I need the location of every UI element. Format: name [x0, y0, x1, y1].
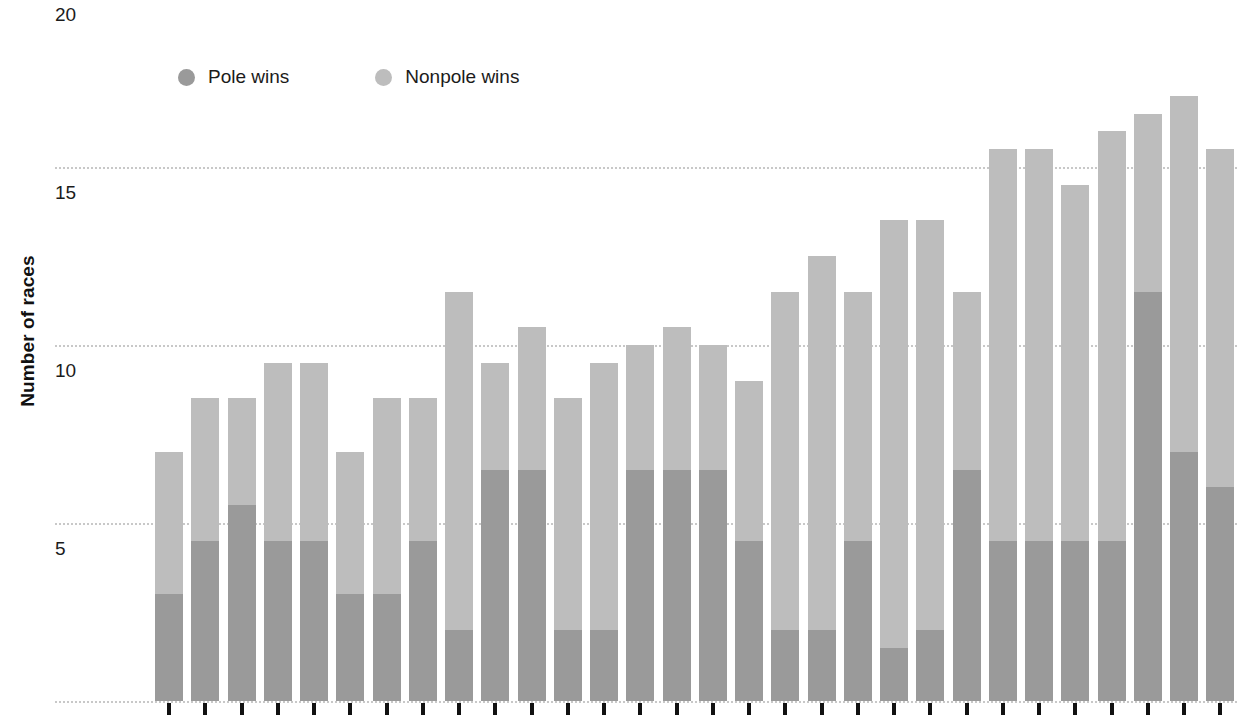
bar-segment-nonpole-wins[interactable] — [735, 381, 763, 541]
bar-segment-pole-wins[interactable] — [808, 630, 836, 701]
bar-segment-nonpole-wins[interactable] — [300, 363, 328, 541]
bar-segment-nonpole-wins[interactable] — [445, 292, 473, 630]
bar-group[interactable] — [1134, 114, 1162, 701]
bar-segment-nonpole-wins[interactable] — [590, 363, 618, 630]
bar-segment-nonpole-wins[interactable] — [1098, 131, 1126, 540]
bar-segment-nonpole-wins[interactable] — [953, 292, 981, 470]
bar-group[interactable] — [264, 363, 292, 701]
bar-group[interactable] — [155, 452, 183, 701]
bar-segment-pole-wins[interactable] — [590, 630, 618, 701]
x-axis-tick — [783, 703, 787, 715]
bar-segment-nonpole-wins[interactable] — [228, 398, 256, 505]
bar-segment-pole-wins[interactable] — [916, 630, 944, 701]
bar-segment-nonpole-wins[interactable] — [1061, 185, 1089, 541]
bar-group[interactable] — [880, 220, 908, 701]
x-axis-tick — [1218, 703, 1222, 715]
bar-segment-nonpole-wins[interactable] — [1170, 96, 1198, 452]
bar-segment-pole-wins[interactable] — [481, 470, 509, 701]
bar-group[interactable] — [626, 345, 654, 701]
bar-group[interactable] — [916, 220, 944, 701]
bar-group[interactable] — [409, 398, 437, 701]
bar-segment-nonpole-wins[interactable] — [155, 452, 183, 594]
bar-segment-pole-wins[interactable] — [300, 541, 328, 701]
bar-segment-pole-wins[interactable] — [1061, 541, 1089, 701]
bar-segment-nonpole-wins[interactable] — [409, 398, 437, 540]
bar-segment-nonpole-wins[interactable] — [518, 327, 546, 469]
bar-segment-pole-wins[interactable] — [880, 648, 908, 701]
bar-group[interactable] — [808, 256, 836, 701]
bar-segment-nonpole-wins[interactable] — [481, 363, 509, 470]
x-axis-tick — [711, 703, 715, 715]
bar-segment-nonpole-wins[interactable] — [916, 220, 944, 629]
bar-group[interactable] — [1206, 149, 1234, 701]
bar-segment-pole-wins[interactable] — [373, 594, 401, 701]
bar-segment-nonpole-wins[interactable] — [771, 292, 799, 630]
bar-group[interactable] — [300, 363, 328, 701]
bar-segment-pole-wins[interactable] — [445, 630, 473, 701]
chart-page: Number of races 20 15 10 5 Pole wins Non… — [0, 0, 1237, 715]
bar-segment-pole-wins[interactable] — [1170, 452, 1198, 701]
bar-group[interactable] — [1061, 185, 1089, 701]
bar-group[interactable] — [735, 381, 763, 701]
bar-segment-pole-wins[interactable] — [155, 594, 183, 701]
bar-segment-pole-wins[interactable] — [336, 594, 364, 701]
bar-group[interactable] — [1098, 131, 1126, 701]
bar-segment-pole-wins[interactable] — [771, 630, 799, 701]
bar-segment-pole-wins[interactable] — [735, 541, 763, 701]
bar-segment-pole-wins[interactable] — [663, 470, 691, 701]
bar-group[interactable] — [953, 292, 981, 701]
bar-group[interactable] — [699, 345, 727, 701]
bar-group[interactable] — [228, 398, 256, 701]
bar-group[interactable] — [554, 398, 582, 701]
bar-segment-pole-wins[interactable] — [1134, 292, 1162, 701]
bar-group[interactable] — [844, 292, 872, 701]
bar-segment-nonpole-wins[interactable] — [554, 398, 582, 629]
x-axis-tick — [1001, 703, 1005, 715]
bar-segment-nonpole-wins[interactable] — [373, 398, 401, 594]
bar-group[interactable] — [771, 292, 799, 701]
bar-group[interactable] — [1170, 96, 1198, 701]
bar-group[interactable] — [663, 327, 691, 701]
bar-segment-pole-wins[interactable] — [264, 541, 292, 701]
bar-segment-nonpole-wins[interactable] — [1206, 149, 1234, 487]
plot-area — [0, 0, 1237, 715]
bar-group[interactable] — [1025, 149, 1053, 701]
bar-group[interactable] — [373, 398, 401, 701]
bar-segment-pole-wins[interactable] — [626, 470, 654, 701]
bar-segment-nonpole-wins[interactable] — [336, 452, 364, 594]
bar-segment-pole-wins[interactable] — [844, 541, 872, 701]
bar-segment-pole-wins[interactable] — [699, 470, 727, 701]
bar-group[interactable] — [518, 327, 546, 701]
bar-segment-nonpole-wins[interactable] — [1134, 114, 1162, 292]
x-axis-tick — [385, 703, 389, 715]
bar-group[interactable] — [336, 452, 364, 701]
bar-group[interactable] — [445, 292, 473, 701]
bar-segment-pole-wins[interactable] — [518, 470, 546, 701]
x-axis-tick — [1037, 703, 1041, 715]
bar-group[interactable] — [590, 363, 618, 701]
bar-segment-nonpole-wins[interactable] — [880, 220, 908, 647]
bar-segment-pole-wins[interactable] — [1206, 487, 1234, 701]
bar-segment-pole-wins[interactable] — [1025, 541, 1053, 701]
bar-segment-nonpole-wins[interactable] — [699, 345, 727, 470]
bar-segment-nonpole-wins[interactable] — [626, 345, 654, 470]
x-axis-tick — [167, 703, 171, 715]
bar-segment-nonpole-wins[interactable] — [264, 363, 292, 541]
bar-segment-pole-wins[interactable] — [953, 470, 981, 701]
bar-segment-nonpole-wins[interactable] — [989, 149, 1017, 541]
bar-group[interactable] — [481, 363, 509, 701]
bar-segment-nonpole-wins[interactable] — [1025, 149, 1053, 541]
bar-segment-pole-wins[interactable] — [409, 541, 437, 701]
bar-group[interactable] — [191, 398, 219, 701]
bar-segment-nonpole-wins[interactable] — [844, 292, 872, 541]
bar-segment-pole-wins[interactable] — [554, 630, 582, 701]
bar-group[interactable] — [989, 149, 1017, 701]
bar-segment-nonpole-wins[interactable] — [808, 256, 836, 630]
x-axis-tick — [1182, 703, 1186, 715]
bar-segment-pole-wins[interactable] — [1098, 541, 1126, 701]
bar-segment-nonpole-wins[interactable] — [663, 327, 691, 469]
bar-segment-pole-wins[interactable] — [191, 541, 219, 701]
bar-segment-pole-wins[interactable] — [989, 541, 1017, 701]
bar-segment-nonpole-wins[interactable] — [191, 398, 219, 540]
bar-segment-pole-wins[interactable] — [228, 505, 256, 701]
